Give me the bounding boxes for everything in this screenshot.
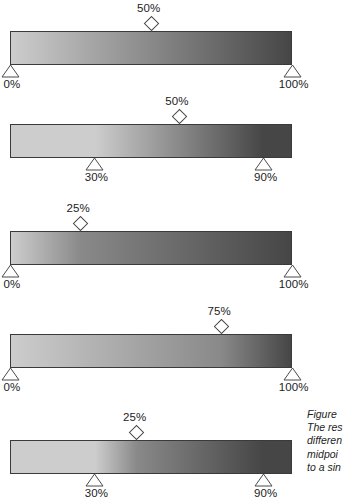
gradient-end-stop-triangle[interactable] — [254, 473, 273, 487]
gradient-start-stop-label: 30% — [85, 171, 108, 183]
gradient-end-stop-triangle[interactable] — [283, 264, 302, 278]
gradient-midpoint-label: 25% — [123, 411, 146, 423]
figure-canvas: 50%0%100%50%30%90%25%0%100%75%0%100%25%3… — [0, 0, 358, 499]
gradient-end-stop-triangle[interactable] — [283, 367, 302, 381]
caption-line: midpoi — [307, 448, 358, 461]
gradient-bar[interactable] — [10, 31, 292, 65]
gradient-start-stop-label: 30% — [85, 487, 108, 499]
gradient-start-stop-triangle[interactable] — [1, 264, 20, 278]
gradient-midpoint-label: 50% — [165, 95, 188, 107]
gradient-end-stop-label: 100% — [279, 381, 309, 393]
gradient-start-stop-label: 0% — [3, 78, 20, 90]
caption-line: The res — [307, 421, 358, 434]
caption-title: Figure — [307, 408, 358, 421]
gradient-midpoint-diamond[interactable] — [73, 216, 89, 232]
gradient-midpoint-diamond[interactable] — [129, 425, 145, 441]
gradient-start-stop-label: 0% — [3, 278, 20, 290]
gradient-bar[interactable] — [10, 334, 292, 368]
gradient-midpoint-label: 25% — [67, 202, 90, 214]
gradient-start-stop-triangle[interactable] — [85, 157, 104, 171]
gradient-midpoint-diamond[interactable] — [171, 109, 187, 125]
gradient-end-stop-label: 90% — [254, 487, 277, 499]
gradient-start-stop-label: 0% — [3, 381, 20, 393]
gradient-midpoint-label: 50% — [137, 2, 160, 14]
gradient-midpoint-diamond[interactable] — [214, 319, 230, 335]
gradient-midpoint-label: 75% — [208, 305, 231, 317]
gradient-start-stop-triangle[interactable] — [1, 367, 20, 381]
figure-caption: FigureThe resdifferenmidpoito a sin — [307, 408, 358, 474]
gradient-end-stop-label: 100% — [279, 278, 309, 290]
caption-line: differen — [307, 434, 358, 447]
gradient-end-stop-label: 90% — [254, 171, 277, 183]
gradient-start-stop-triangle[interactable] — [85, 473, 104, 487]
gradient-end-stop-label: 100% — [279, 78, 309, 90]
gradient-midpoint-diamond[interactable] — [143, 16, 159, 32]
gradient-bar[interactable] — [10, 124, 292, 158]
caption-line: to a sin — [307, 461, 358, 474]
gradient-end-stop-triangle[interactable] — [283, 64, 302, 78]
gradient-bar[interactable] — [10, 440, 292, 474]
gradient-end-stop-triangle[interactable] — [254, 157, 273, 171]
gradient-start-stop-triangle[interactable] — [1, 64, 20, 78]
gradient-bar[interactable] — [10, 231, 292, 265]
